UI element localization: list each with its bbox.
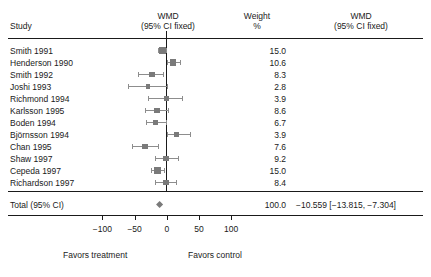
study-weight: 9.2 [240,154,286,164]
effect-estimate-box [163,180,169,186]
header-wmd-left-line2: (95% CI fixed) [118,21,218,31]
header-weight-line1: Weight [222,11,292,21]
confidence-interval-cap [145,108,146,112]
study-label: Smith 1992 [10,70,53,80]
header-rule [8,38,423,39]
total-bottom-rule [8,215,423,216]
confidence-interval-cap [128,84,129,88]
study-label: Richmond 1994 [10,94,70,104]
effect-estimate-box [163,156,169,162]
header-study: Study [10,22,32,31]
header-wmd-right-line2: (95% CI fixed) [298,21,424,31]
axis-tick [167,216,168,220]
favors-treatment-label: Favors treatment [63,250,127,260]
confidence-interval-cap [163,72,164,76]
confidence-interval-cap [167,132,168,136]
confidence-interval-cap [155,156,156,160]
study-label: Björnsson 1994 [10,130,69,140]
confidence-interval-cap [148,96,149,100]
effect-estimate-box [170,59,176,65]
total-label: Total (95% CI) [10,200,64,210]
study-label: Shaw 1997 [10,154,53,164]
effect-estimate-box [154,108,160,114]
header-wmd-right: WMD (95% CI fixed) [298,11,424,31]
axis-tick [102,216,103,220]
effect-estimate-box [142,144,147,149]
confidence-interval-cap [166,120,167,124]
effect-estimate-box [146,84,150,88]
confidence-interval-cap [164,168,165,172]
effect-estimate-box [153,120,158,125]
total-weight: 100.0 [240,200,286,210]
confidence-interval-cap [158,144,159,148]
effect-estimate-box [149,72,155,78]
confidence-interval-cap [178,156,179,160]
study-label: Richardson 1997 [10,178,74,188]
confidence-interval-cap [180,60,181,64]
header-wmd-left-line1: WMD [118,11,218,21]
study-label: Smith 1991 [10,46,53,56]
study-label: Chan 1995 [10,142,52,152]
confidence-interval-cap [151,168,152,172]
confidence-interval-cap [167,60,168,64]
confidence-interval-cap [167,84,168,88]
axis-tick-label: 100 [211,224,251,234]
confidence-interval-cap [166,48,167,52]
axis-tick [135,216,136,220]
study-weight: 3.9 [240,94,286,104]
favors-control-label: Favors control [188,250,242,260]
effect-estimate-box [159,47,166,54]
effect-estimate-box [154,167,161,174]
study-label: Joshi 1993 [10,82,51,92]
study-weight: 2.8 [240,82,286,92]
confidence-interval-cap [132,144,133,148]
confidence-interval-cap [176,180,177,184]
confidence-interval-cap [168,108,169,112]
header-weight: Weight % [222,11,292,31]
effect-estimate-box [164,96,169,101]
confidence-interval-cap [182,96,183,100]
header-wmd-left: WMD (95% CI fixed) [118,11,218,31]
study-label: Cepeda 1997 [10,166,61,176]
study-weight: 6.7 [240,118,286,128]
study-label: Henderson 1990 [10,58,73,68]
study-weight: 3.9 [240,130,286,140]
header-weight-line2: % [222,21,292,31]
summary-diamond [156,201,163,208]
study-weight: 7.6 [240,142,286,152]
total-estimate: −10.559 [−13.815, −7.304] [296,200,396,210]
confidence-interval-cap [146,120,147,124]
study-weight: 8.4 [240,178,286,188]
study-weight: 8.6 [240,106,286,116]
study-weight: 8.3 [240,70,286,80]
study-label: Boden 1994 [10,118,56,128]
study-label: Karlsson 1995 [10,106,64,116]
total-top-rule [8,191,423,192]
study-weight: 15.0 [240,166,286,176]
axis-tick [199,216,200,220]
confidence-interval-cap [190,132,191,136]
forest-plot: WMD (95% CI fixed) Weight % WMD (95% CI … [0,0,431,277]
confidence-interval-cap [138,72,139,76]
effect-estimate-box [174,132,179,137]
study-weight: 15.0 [240,46,286,56]
header-wmd-right-line1: WMD [298,11,424,21]
confidence-interval-cap [155,180,156,184]
axis-tick [231,216,232,220]
study-weight: 10.6 [240,58,286,68]
